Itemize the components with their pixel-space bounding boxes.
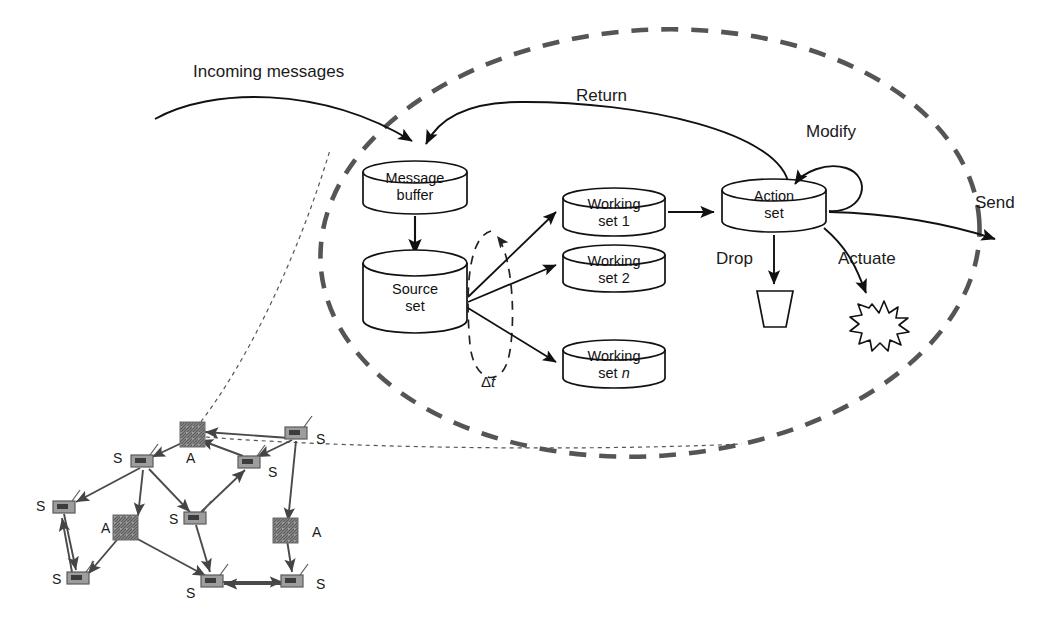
store-label-action-set: Action set <box>724 188 824 221</box>
label-drop: Drop <box>716 249 753 268</box>
label-actuate: Actuate <box>838 249 896 268</box>
network-node-label-a3: A <box>312 525 321 541</box>
label-delta-t: Δt <box>481 374 495 391</box>
store-label-source-set: Source set <box>365 281 465 314</box>
store-label-working-set-1: Working set 1 <box>564 196 664 229</box>
store-line-2: set 1 <box>564 213 664 230</box>
return-arrow <box>426 102 789 186</box>
store-line-2: set 2 <box>564 270 664 287</box>
store-line-1: Working <box>564 253 664 270</box>
store-line-1: Message <box>365 170 465 187</box>
network-node-label-s6: S <box>52 572 61 588</box>
trash-bin-icon <box>757 291 793 327</box>
diagram-vector-layer <box>0 0 1048 624</box>
store-line-2: set <box>365 298 465 315</box>
label-send: Send <box>975 193 1015 212</box>
burst-icon <box>850 301 909 351</box>
delta-t-loop <box>468 231 512 378</box>
store-label-working-set-n: Working set n <box>564 348 664 381</box>
network-node-label-s2: S <box>268 465 277 481</box>
agent-boundary <box>306 7 994 478</box>
diagram-canvas: Incoming messages Return Modify Send Dro… <box>0 0 1048 624</box>
network-node-label-a2: A <box>101 521 110 537</box>
network-node-label-s1: S <box>113 451 122 467</box>
store-label-message-buffer: Message buffer <box>365 170 465 203</box>
store-line-2: set <box>724 205 824 222</box>
network-node-label-s4: S <box>36 499 45 515</box>
store-line-1: Working <box>564 348 664 365</box>
store-line-1: Source <box>365 281 465 298</box>
store-line-2: set n <box>564 365 664 382</box>
network-node-label-s8: S <box>316 577 325 593</box>
network-node-label-s7: S <box>186 586 195 602</box>
network-links <box>62 432 296 584</box>
network-node-label-s3: S <box>316 432 325 448</box>
label-return: Return <box>576 86 627 105</box>
label-incoming-messages: Incoming messages <box>193 62 344 81</box>
send-arrow <box>829 212 995 239</box>
store-line-2: buffer <box>365 187 465 204</box>
store-label-working-set-2: Working set 2 <box>564 253 664 286</box>
store-line-1: Action <box>724 188 824 205</box>
incoming-messages-arrow <box>155 97 412 141</box>
network-node-label-a1: A <box>186 451 195 467</box>
network-node-label-s5: S <box>169 512 178 528</box>
label-modify: Modify <box>806 122 856 141</box>
store-line-1: Working <box>564 196 664 213</box>
